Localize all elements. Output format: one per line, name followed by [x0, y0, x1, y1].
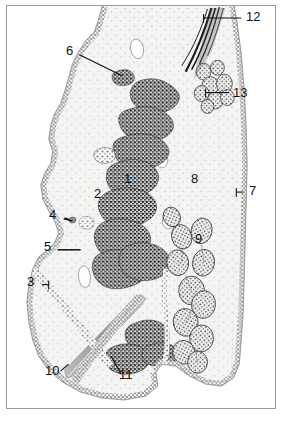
label-2: 2: [94, 187, 101, 200]
label-10: 10: [45, 364, 59, 377]
label-9: 9: [195, 232, 202, 245]
label-6: 6: [66, 44, 73, 57]
label-1: 1: [124, 172, 131, 185]
figure-frame: 1 2 3 4 5 6 7 8 9 10 11 12 13: [6, 5, 276, 409]
label-3: 3: [27, 275, 34, 288]
label-8: 8: [191, 172, 198, 185]
label-5: 5: [44, 240, 51, 253]
label-11: 11: [119, 368, 133, 381]
label-13: 13: [233, 86, 247, 99]
histology-plate-drawing: [7, 6, 275, 408]
label-12: 12: [246, 10, 260, 23]
label-4: 4: [49, 208, 56, 221]
label-7: 7: [249, 184, 256, 197]
figure-root: 1 2 3 4 5 6 7 8 9 10 11 12 13: [0, 0, 284, 424]
